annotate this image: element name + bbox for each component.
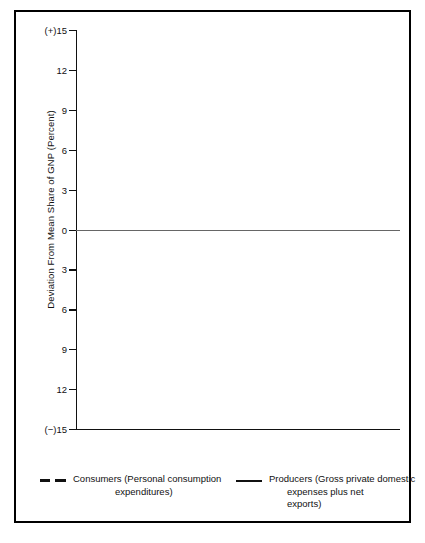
y-tick-label: 3 [62,264,67,275]
y-tick-mark [69,389,76,390]
chart-figure: Deviation From Mean Share of GNP (Percen… [14,10,411,523]
legend-swatch-dashed-icon [40,479,66,482]
y-tick-label: 9 [62,104,67,115]
y-tick-mark [69,349,76,350]
y-tick-mark [69,110,76,111]
y-tick-mark [69,429,76,430]
legend-swatch-solid-icon [236,480,262,483]
y-tick-mark [69,70,76,71]
legend-label-producers-line2: expenses plus net [269,486,415,499]
y-tick-label: 0 [62,224,67,235]
legend-label-consumers-line2: expenditures) [73,486,221,499]
y-tick-mark [69,190,76,191]
legend-label-consumers-line1: Consumers (Personal consumption [73,473,221,484]
chart-legend: Consumers (Personal consumption expendit… [30,474,399,522]
y-tick-label: 12 [56,384,67,395]
legend-label-producers-line3: exports) [269,498,415,511]
y-tick-label: 6 [62,144,67,155]
y-tick-label: 3 [62,184,67,195]
y-tick-label: 6 [62,304,67,315]
y-tick-mark [69,269,76,270]
legend-label-producers: Producers (Gross private domestic expens… [269,473,415,511]
y-tick-mark [69,230,76,231]
y-tick-label: 9 [62,344,67,355]
y-tick-label: (+)15 [45,25,67,36]
y-tick-mark [69,309,76,310]
y-tick-mark [69,150,76,151]
series-lines [76,20,400,440]
y-tick-label: (−)15 [45,424,67,435]
y-tick-mark [69,30,76,31]
y-tick-label: 12 [56,64,67,75]
plot-area: (+)1512963036912(−)15 [76,20,400,430]
legend-label-consumers: Consumers (Personal consumption expendit… [73,473,221,498]
legend-label-producers-line1: Producers (Gross private domestic [269,473,415,484]
y-axis-title: Deviation From Mean Share of GNP (Percen… [45,100,56,320]
